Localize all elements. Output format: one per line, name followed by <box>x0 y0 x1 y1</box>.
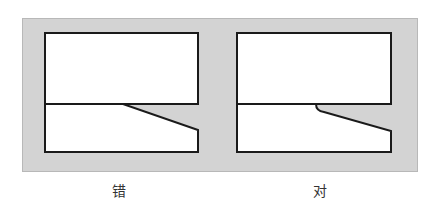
correct-example <box>237 33 391 152</box>
diagram-canvas <box>0 0 435 209</box>
correct-caption: 对 <box>300 180 340 200</box>
correct-bottom-part <box>237 104 391 152</box>
wrong-top-part <box>45 33 198 104</box>
correct-top-part <box>237 33 391 104</box>
wrong-example <box>45 33 198 152</box>
wrong-caption: 错 <box>99 180 139 200</box>
wrong-bottom-part <box>45 104 198 152</box>
